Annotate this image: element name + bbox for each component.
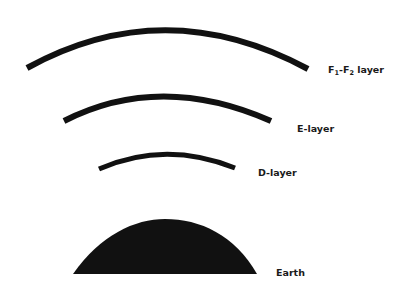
e-layer-arc [64, 97, 271, 122]
earth-label: Earth [276, 268, 305, 278]
d-layer-arc [99, 154, 235, 169]
ionosphere-diagram [0, 0, 403, 293]
d-layer-label: D-layer [258, 168, 297, 178]
e-layer-label: E-layer [297, 124, 334, 134]
earth-shape [73, 219, 257, 274]
f-layer-label: F1-F2 layer [328, 65, 384, 76]
f-layer-arc [27, 30, 308, 69]
